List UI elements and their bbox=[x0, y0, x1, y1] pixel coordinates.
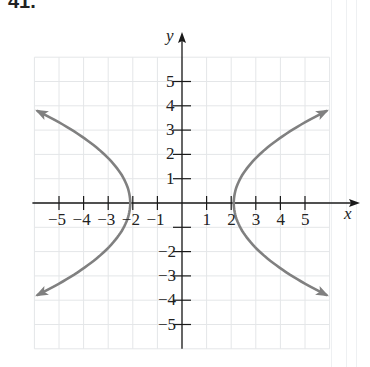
problem-number: 41. bbox=[8, 0, 36, 11]
x-tick-label: −5 bbox=[48, 211, 66, 228]
x-tick-label: −2 bbox=[122, 211, 140, 228]
x-tick-label: −3 bbox=[97, 211, 115, 228]
x-tick-label: −4 bbox=[73, 211, 91, 228]
y-tick-label: 4 bbox=[166, 97, 175, 114]
x-tick-label: 1 bbox=[203, 211, 212, 228]
y-tick-label: 5 bbox=[166, 73, 175, 90]
axes bbox=[32, 32, 360, 349]
y-tick-label: −3 bbox=[158, 267, 176, 284]
x-tick-label: 2 bbox=[227, 211, 236, 228]
y-axis-label: y bbox=[166, 27, 174, 44]
y-tick-label: −5 bbox=[158, 316, 176, 333]
hyperbola-graph bbox=[0, 0, 370, 367]
y-tick-label: 1 bbox=[166, 170, 175, 187]
y-tick-label: 3 bbox=[166, 121, 175, 138]
y-tick-label: −2 bbox=[158, 243, 176, 260]
y-tick-label: −4 bbox=[158, 291, 176, 308]
x-tick-label: 3 bbox=[252, 211, 261, 228]
x-tick-label: 5 bbox=[301, 211, 310, 228]
y-tick-label: 2 bbox=[166, 145, 175, 162]
x-tick-label: 4 bbox=[276, 211, 285, 228]
x-tick-label: −1 bbox=[146, 211, 164, 228]
x-axis-label: x bbox=[344, 205, 352, 222]
